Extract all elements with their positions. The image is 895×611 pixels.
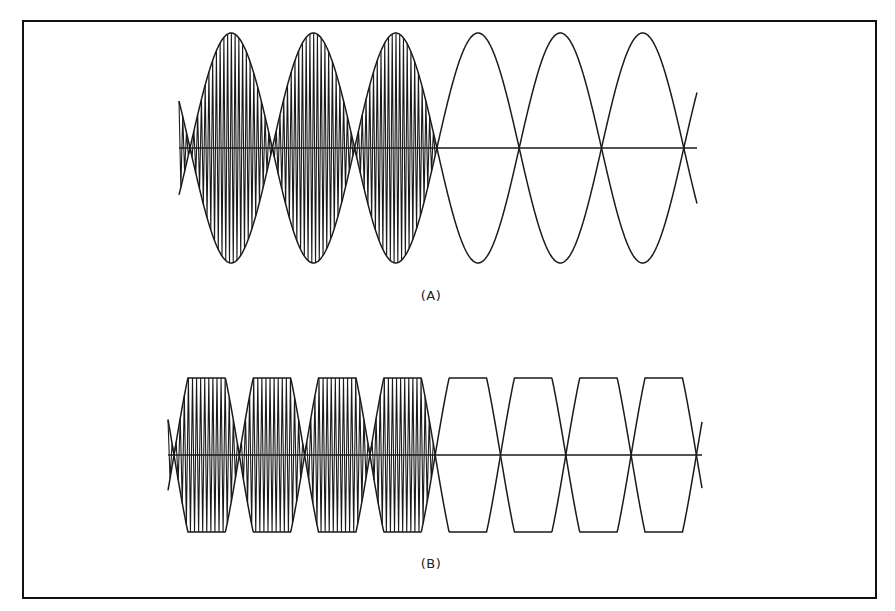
panel-a-waveform [179,33,697,263]
waveform-diagram [0,0,895,611]
panel-a-label: (A) [421,288,442,303]
panel-b-waveform [168,378,702,532]
panel-b-label: (B) [421,556,442,571]
